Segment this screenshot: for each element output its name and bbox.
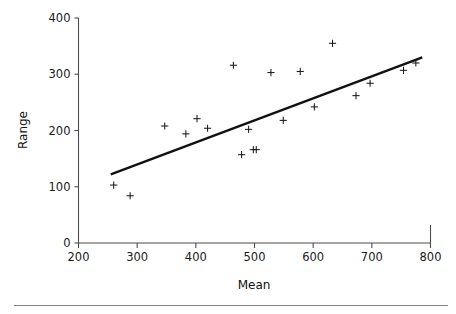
y-tick-label: 100	[49, 180, 71, 194]
x-tick-label: 600	[302, 250, 324, 264]
x-tick-label: 400	[185, 250, 207, 264]
y-axis-title: Range	[16, 111, 30, 149]
x-tick-label: 500	[244, 250, 266, 264]
x-tick-label: 700	[361, 250, 383, 264]
x-tick-label: 300	[126, 250, 148, 264]
x-tick-label: 800	[420, 250, 442, 264]
y-tick-label: 200	[49, 124, 71, 138]
scatter-plot-figure: 0100200300400 200300400500600700800 Rang…	[0, 0, 456, 314]
figure-background	[0, 0, 456, 314]
y-tick-label: 400	[49, 11, 71, 25]
x-tick-label: 200	[68, 250, 90, 264]
y-tick-label: 300	[49, 67, 71, 81]
y-tick-label: 0	[63, 236, 70, 250]
x-axis-title: Mean	[238, 278, 271, 292]
